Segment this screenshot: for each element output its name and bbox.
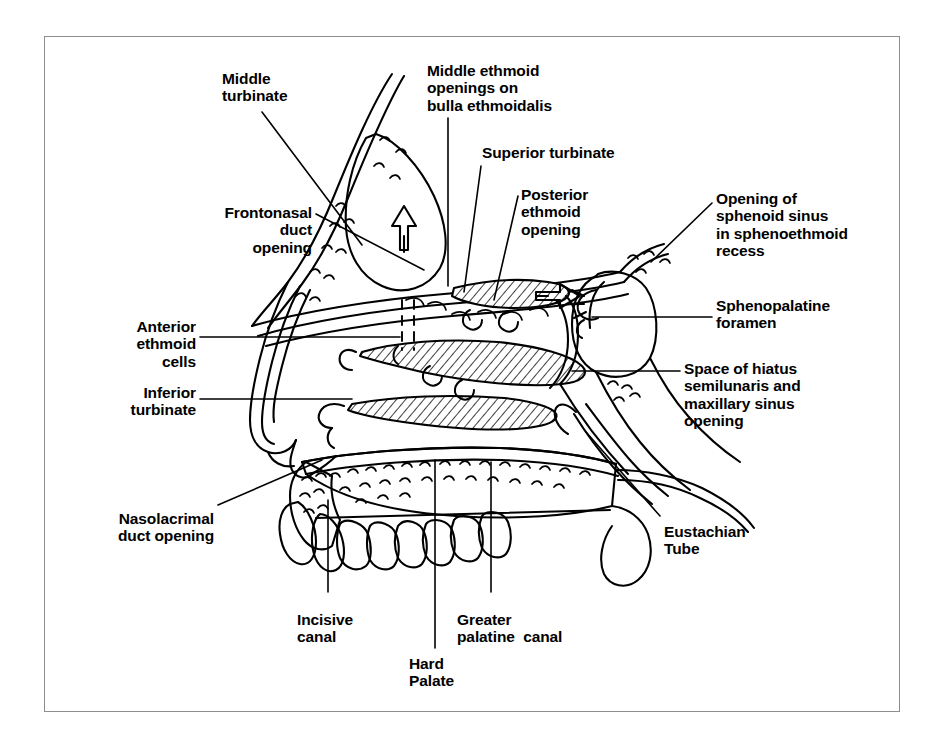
label-line: sphenoid sinus xyxy=(716,207,848,224)
label-line: ethmoid xyxy=(521,203,588,220)
label-sphenopalatine-foramen: Sphenopalatineforamen xyxy=(716,297,830,332)
label-line: Superior turbinate xyxy=(482,144,615,161)
label-line: Opening of xyxy=(716,190,848,207)
label-incisive-canal: Incisivecanal xyxy=(297,611,353,646)
label-middle-turbinate: Middleturbinate xyxy=(222,70,287,105)
label-line: Middle ethmoid xyxy=(427,62,552,79)
label-line: turbinate xyxy=(0,401,196,418)
label-line: Incisive xyxy=(297,611,353,628)
label-line: turbinate xyxy=(222,87,287,104)
label-eustachian-tube: EustachianTube xyxy=(664,523,746,558)
label-line: Anterior xyxy=(0,318,196,335)
label-line: Tube xyxy=(664,540,746,557)
label-line: Greater xyxy=(457,611,562,628)
label-greater-palatine: Greaterpalatine canal xyxy=(457,611,562,646)
label-line: Middle xyxy=(222,70,287,87)
label-line: Hard xyxy=(409,655,454,672)
label-middle-ethmoid: Middle ethmoidopenings onbulla ethmoidal… xyxy=(427,62,552,114)
label-line: openings on xyxy=(427,79,552,96)
label-line: Sphenopalatine xyxy=(716,297,830,314)
label-line: ethmoid xyxy=(0,335,196,352)
label-line: Inferior xyxy=(0,384,196,401)
label-line: Palate xyxy=(409,672,454,689)
label-line: semilunaris and xyxy=(684,377,801,394)
label-line: opening xyxy=(521,221,588,238)
label-frontonasal-duct: Frontonasalductopening xyxy=(0,204,312,256)
label-line: cells xyxy=(0,353,196,370)
label-sphenoid-opening: Opening ofsphenoid sinusin sphenoethmoid… xyxy=(716,190,848,259)
label-layer: MiddleturbinateMiddle ethmoidopenings on… xyxy=(0,0,932,740)
label-line: canal xyxy=(297,628,353,645)
label-line: Posterior xyxy=(521,186,588,203)
label-line: in sphenoethmoid xyxy=(716,225,848,242)
label-line: palatine canal xyxy=(457,628,562,645)
label-line: bulla ethmoidalis xyxy=(427,97,552,114)
label-line: opening xyxy=(0,239,312,256)
label-nasolacrimal-duct: Nasolacrimalduct opening xyxy=(0,510,214,545)
label-line: Frontonasal xyxy=(0,204,312,221)
label-line: Nasolacrimal xyxy=(0,510,214,527)
label-line: duct opening xyxy=(0,527,214,544)
label-posterior-ethmoid: Posteriorethmoidopening xyxy=(521,186,588,238)
label-space-hiatus: Space of hiatussemilunaris andmaxillary … xyxy=(684,360,801,429)
label-anterior-ethmoid: Anteriorethmoidcells xyxy=(0,318,196,370)
label-line: maxillary sinus xyxy=(684,395,801,412)
label-inferior-turbinate: Inferiorturbinate xyxy=(0,384,196,419)
label-hard-palate: HardPalate xyxy=(409,655,454,690)
anatomy-figure: MiddleturbinateMiddle ethmoidopenings on… xyxy=(0,0,932,740)
label-line: Space of hiatus xyxy=(684,360,801,377)
label-line: opening xyxy=(684,412,801,429)
label-line: recess xyxy=(716,242,848,259)
label-superior-turbinate: Superior turbinate xyxy=(482,144,615,161)
label-line: Eustachian xyxy=(664,523,746,540)
label-line: foramen xyxy=(716,314,830,331)
label-line: duct xyxy=(0,221,312,238)
